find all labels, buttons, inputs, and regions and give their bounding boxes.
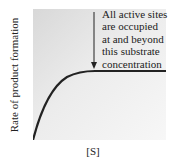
arrow-head-icon bbox=[91, 62, 97, 69]
y-axis-label: Rate of product formation bbox=[8, 18, 20, 133]
x-axis-label: [S] bbox=[86, 145, 99, 157]
annotation-text: All active sitesare occupiedat and beyon… bbox=[102, 8, 167, 70]
